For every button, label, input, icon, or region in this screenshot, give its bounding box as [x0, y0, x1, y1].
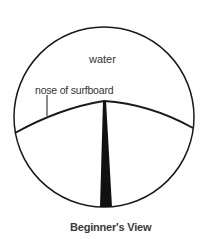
beginners-view-diagram [0, 0, 207, 239]
surfboard-stringer [100, 101, 112, 207]
nose-of-surfboard-label: nose of surfboard [35, 84, 113, 96]
diagram-caption: Beginner's View [70, 221, 151, 233]
water-label: water [89, 53, 116, 65]
